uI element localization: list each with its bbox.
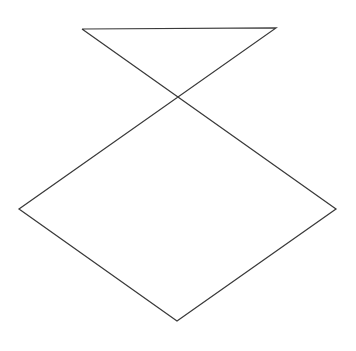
drawing-canvas xyxy=(0,0,356,351)
star-figure xyxy=(0,0,356,351)
canvas-background xyxy=(0,0,356,351)
